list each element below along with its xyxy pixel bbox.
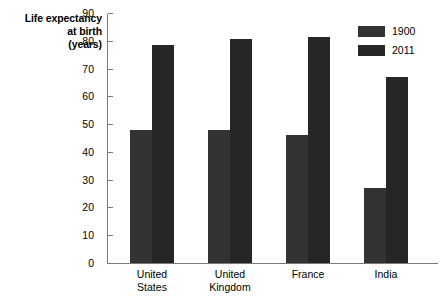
y-axis-tick (108, 263, 113, 264)
x-axis-line (107, 263, 438, 264)
bar-united-kingdom-2011 (230, 39, 252, 263)
legend-swatch-2011-icon (358, 45, 385, 56)
y-axis-tick-label: 10 (54, 230, 94, 240)
bar-chart: Life expectancy at birth (years) 9080706… (0, 0, 443, 304)
y-axis-tick-label: 60 (54, 91, 94, 101)
x-axis-label-india: India (341, 268, 431, 281)
bar-france-2011 (308, 37, 330, 263)
x-axis-label-united-kingdom: UnitedKingdom (185, 268, 275, 294)
legend-label-2011: 2011 (392, 45, 415, 56)
bar-united-states-1900 (130, 130, 152, 263)
y-axis-tick-label: 90 (54, 8, 94, 18)
y-axis-tick-label: 80 (54, 36, 94, 46)
legend: 1900 2011 (358, 24, 415, 62)
bar-india-2011 (386, 77, 408, 263)
y-axis-tick-label: 40 (54, 147, 94, 157)
bar-united-states-2011 (152, 45, 174, 263)
bar-france-1900 (286, 135, 308, 263)
y-axis-tick-label: 0 (54, 258, 94, 268)
legend-swatch-1900-icon (358, 26, 385, 37)
y-axis-tick-label: 30 (54, 175, 94, 185)
y-axis-tick-label: 70 (54, 64, 94, 74)
x-axis-label-france: France (263, 268, 353, 281)
legend-item-1900[interactable]: 1900 (358, 24, 415, 39)
bar-india-1900 (364, 188, 386, 263)
bar-united-kingdom-1900 (208, 130, 230, 263)
legend-item-2011[interactable]: 2011 (358, 43, 415, 58)
x-axis-label-united-states: UnitedStates (107, 268, 197, 294)
legend-label-1900: 1900 (392, 26, 415, 37)
y-axis-tick-label: 20 (54, 202, 94, 212)
y-axis-tick-label: 50 (54, 119, 94, 129)
